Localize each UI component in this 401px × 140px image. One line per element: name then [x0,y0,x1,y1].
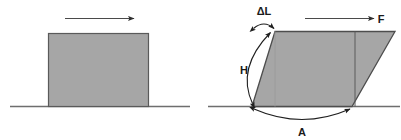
deformed-block-panel: F ΔL H A [208,5,400,139]
shear-deformation-figure: F ΔL H A [0,0,401,140]
height-label: H [240,64,248,76]
force-label: F [378,13,385,25]
delta-l-arc [254,24,275,29]
delta-l-label: ΔL [257,5,272,17]
figure-canvas: F ΔL H A [0,0,401,140]
deformed-block [252,32,395,107]
area-arc [254,109,350,120]
area-label: A [298,126,306,138]
undeformed-block [49,34,149,107]
undeformed-block-panel [10,19,190,107]
